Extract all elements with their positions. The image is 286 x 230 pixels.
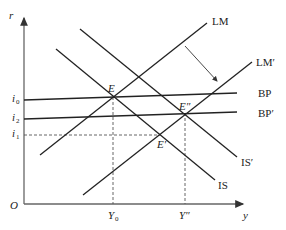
svg-text:0: 0 (115, 215, 119, 223)
point-e-label: E (107, 82, 115, 94)
svg-text:2: 2 (16, 117, 20, 125)
lm-prime-label: LM′ (256, 56, 275, 68)
dashed-guides (24, 97, 185, 204)
lm-curve (40, 23, 207, 155)
bp-prime-curve (24, 112, 237, 119)
lm-label: LM (212, 15, 229, 27)
tick-ydoubleprime: Y″ (179, 209, 190, 221)
svg-text:i: i (12, 127, 15, 139)
is-label: IS (218, 179, 228, 191)
tick-i2: i 2 (12, 111, 20, 125)
tick-y0: Y 0 (108, 209, 119, 223)
bp-prime-label: BP′ (258, 107, 274, 119)
tick-i1: i 1 (12, 127, 20, 141)
svg-text:1: 1 (16, 133, 20, 141)
origin-label: O (10, 199, 18, 211)
y-axis-label: r (9, 9, 14, 21)
tick-i0: i 0 (12, 92, 20, 106)
point-e-double-prime-label: E″ (178, 100, 191, 112)
x-axis-label: y (242, 209, 248, 221)
is-prime-label: IS′ (241, 156, 253, 168)
is-curve (56, 49, 215, 180)
svg-text:Y″: Y″ (179, 209, 190, 221)
bp-label: BP (258, 87, 271, 99)
is-lm-bp-diagram: r y O i 0 i 2 i 1 Y 0 Y″ E E″ E′ LM LM′ … (0, 0, 286, 230)
svg-text:i: i (12, 111, 15, 123)
point-e-prime-label: E′ (156, 138, 167, 150)
svg-text:i: i (12, 92, 15, 104)
svg-text:0: 0 (16, 98, 20, 106)
lm-shift-arrow (185, 46, 217, 81)
